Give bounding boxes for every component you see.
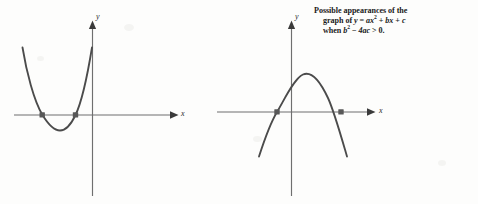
right-y-axis-label: y bbox=[295, 13, 299, 21]
left-x-axis bbox=[14, 111, 179, 118]
figure-caption: Possible appearances of the graph of y =… bbox=[314, 6, 474, 37]
caption-line-3: when b2 − 4ac > 0. bbox=[314, 26, 474, 36]
left-x-axis-label: x bbox=[181, 110, 185, 118]
caption-line-2: graph of y = ax2 + bx + c bbox=[314, 16, 474, 26]
caption-term-c: c bbox=[402, 16, 406, 25]
caption-term-4ac: 4ac bbox=[358, 26, 370, 35]
caption-equals: = bbox=[358, 16, 367, 25]
caption-line-1: Possible appearances of the bbox=[314, 6, 474, 16]
left-y-axis-label: y bbox=[96, 13, 100, 21]
caption-inequality: > 0. bbox=[370, 26, 384, 35]
left-root-marker-2 bbox=[73, 112, 78, 117]
left-graph-svg bbox=[0, 0, 200, 204]
right-root-marker-2 bbox=[338, 109, 343, 114]
caption-term-ax: ax bbox=[366, 16, 374, 25]
right-root-marker-1 bbox=[274, 109, 279, 114]
right-parabola-curve bbox=[259, 74, 347, 157]
caption-line3-prefix: when bbox=[323, 26, 343, 35]
right-y-axis bbox=[288, 21, 295, 197]
right-x-axis bbox=[217, 108, 376, 115]
left-root-marker-1 bbox=[40, 112, 45, 117]
scan-speckle bbox=[438, 160, 446, 166]
left-parabola-curve bbox=[23, 48, 93, 131]
textbook-figure: x y x y Possible appearances of the grap… bbox=[0, 0, 478, 204]
right-x-axis-label: x bbox=[379, 107, 383, 115]
caption-plus-2: + bbox=[393, 16, 402, 25]
